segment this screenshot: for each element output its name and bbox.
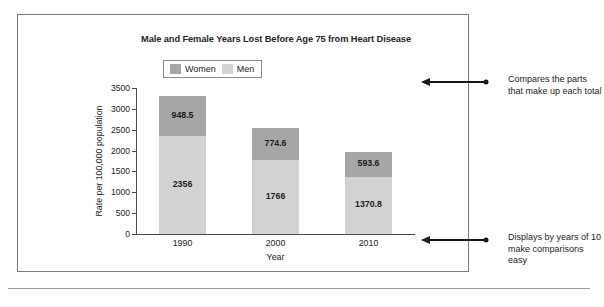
bar-segment-women[interactable]: 948.5 [159, 96, 206, 136]
x-axis-tick-label: 2010 [324, 238, 414, 248]
legend-label-women: Women [185, 64, 216, 74]
y-axis-tick-mark [132, 88, 136, 89]
x-axis-line [136, 234, 415, 235]
bar-value-label-men: 1766 [252, 191, 299, 201]
bar-segment-men[interactable]: 1370.8 [345, 177, 392, 234]
y-axis-line [136, 88, 137, 234]
y-axis-tick-label: 500 [98, 208, 130, 218]
bar-segment-women[interactable]: 774.6 [252, 128, 299, 160]
bar-group[interactable]: 774.61766 [252, 128, 299, 234]
y-axis-tick-mark [132, 192, 136, 193]
annotation-top-text: Compares the parts that make up each tot… [508, 74, 604, 97]
bar-value-label-women: 593.6 [345, 158, 392, 168]
bar-value-label-women: 948.5 [159, 110, 206, 120]
bar-segment-men[interactable]: 1766 [252, 160, 299, 234]
y-axis-tick-mark [132, 109, 136, 110]
annotation-top-arrowhead [421, 78, 430, 86]
bar-group[interactable]: 593.61370.8 [345, 152, 392, 234]
annotation-bottom-arrowhead [421, 236, 430, 244]
legend-entry-men: Men [222, 64, 255, 74]
chart-legend: Women Men [163, 60, 262, 78]
y-axis-tick-mark [132, 151, 136, 152]
bar-value-label-women: 774.6 [252, 138, 299, 148]
y-axis-tick-label: 3500 [98, 83, 130, 93]
legend-swatch-men [222, 64, 233, 74]
page-bottom-rule [8, 288, 590, 289]
legend-swatch-women [170, 64, 181, 74]
legend-entry-women: Women [170, 64, 216, 74]
chart-title: Male and Female Years Lost Before Age 75… [126, 34, 426, 44]
y-axis-tick-label: 0 [98, 229, 130, 239]
bar-value-label-men: 1370.8 [345, 199, 392, 209]
bar-value-label-men: 2356 [159, 179, 206, 189]
x-axis-title: Year [136, 252, 415, 262]
annotation-top-line [430, 81, 486, 82]
y-axis-tick-label: 1500 [98, 166, 130, 176]
y-axis-tick-label: 1000 [98, 187, 130, 197]
y-axis-tick-mark [132, 130, 136, 131]
annotation-bottom-line [430, 239, 486, 240]
x-axis-tick-label: 1990 [138, 238, 228, 248]
annotation-bottom-text: Displays by years of 10 make comparisons… [508, 232, 604, 267]
bar-group[interactable]: 948.52356 [159, 96, 206, 234]
y-axis-tick-label: 2500 [98, 125, 130, 135]
y-axis-tick-mark [132, 234, 136, 235]
plot-area: 0500100015002000250030003500 948.5235677… [136, 88, 415, 234]
y-axis-tick-label: 2000 [98, 146, 130, 156]
legend-label-men: Men [237, 64, 255, 74]
y-axis-tick-label: 3000 [98, 104, 130, 114]
bar-segment-women[interactable]: 593.6 [345, 152, 392, 177]
y-axis-tick-mark [132, 213, 136, 214]
x-axis-tick-label: 2000 [231, 238, 321, 248]
y-axis-tick-mark [132, 171, 136, 172]
bar-segment-men[interactable]: 2356 [159, 136, 206, 234]
